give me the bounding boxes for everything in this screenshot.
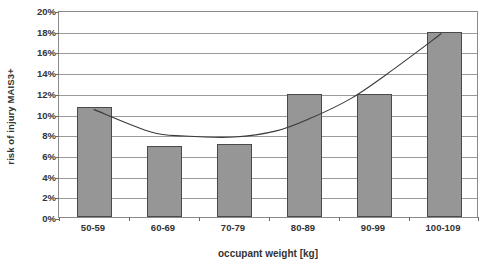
trend-curve (59, 12, 477, 217)
y-axis-tick-label: 2% (18, 192, 56, 203)
x-axis-tickmark (339, 217, 340, 221)
y-axis-tick-label: 16% (18, 47, 56, 58)
y-axis-tick-label: 6% (18, 150, 56, 161)
y-axis-tick-label: 8% (18, 130, 56, 141)
trend-curve-path (94, 34, 442, 138)
x-axis-tick-label: 80-89 (291, 222, 315, 233)
x-axis-tickmark (269, 217, 270, 221)
y-axis-tick-labels: 0%2%4%6%8%10%12%14%16%18%20% (18, 0, 56, 232)
x-axis-tickmark (478, 217, 479, 221)
y-axis-tick-label: 10% (18, 109, 56, 120)
x-axis-tick-label: 90-99 (361, 222, 385, 233)
y-axis-tick-label: 4% (18, 171, 56, 182)
plot-area (58, 11, 478, 218)
y-axis-tick-label: 20% (18, 6, 56, 17)
x-axis-tick-label: 50-59 (81, 222, 105, 233)
x-axis-tickmark (409, 217, 410, 221)
x-axis-tick-labels: 50-5960-6970-7980-8990-99100-109 (58, 222, 478, 238)
x-axis-tick-label: 70-79 (221, 222, 245, 233)
x-axis-tickmark (129, 217, 130, 221)
x-axis-tick-label: 60-69 (151, 222, 175, 233)
y-axis-tick-label: 12% (18, 88, 56, 99)
x-axis-tickmark (59, 217, 60, 221)
y-axis-title-label: risk of injury MAIS3+ (5, 68, 16, 164)
x-axis-title: occupant weight [kg] (58, 248, 478, 259)
y-axis-tick-label: 14% (18, 68, 56, 79)
y-axis-tick-label: 18% (18, 26, 56, 37)
x-axis-tickmark (199, 217, 200, 221)
y-axis-tick-label: 0% (18, 213, 56, 224)
y-axis-title: risk of injury MAIS3+ (2, 0, 18, 232)
x-axis-tick-label: 100-109 (426, 222, 461, 233)
chart-container: risk of injury MAIS3+ 0%2%4%6%8%10%12%14… (0, 0, 499, 273)
